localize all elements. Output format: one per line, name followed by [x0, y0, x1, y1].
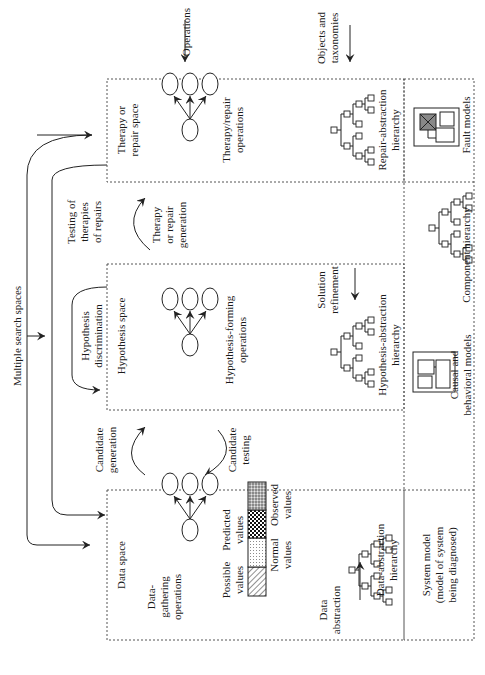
testing-therapies-label-3: of repairs: [91, 201, 103, 243]
fault-model-icon: [414, 108, 459, 146]
system-model-title-3: being diagnosed): [446, 527, 459, 603]
therapy-operations-label-1: Therapy/repair: [220, 97, 232, 163]
operations-label: Operations: [180, 8, 192, 56]
predicted-values-label-1: Predicted: [220, 509, 232, 551]
hypothesis-space-title: Hypothesis space: [115, 298, 127, 375]
data-hierarchy-label-1: Data-abstraction: [374, 523, 386, 596]
data-operations-label-2: gathering: [158, 576, 170, 618]
data-abstraction-label-2: abstraction: [330, 585, 342, 634]
candidate-testing-label-1: Candidate: [226, 428, 238, 473]
data-operations-label-3: operations: [171, 574, 183, 620]
testing-therapies-label-1: Testing of: [65, 200, 77, 244]
objects-taxonomies-label-2: taxonomies: [328, 13, 340, 64]
solution-refinement-label-1: Solution: [315, 271, 327, 309]
data-operations-label-1: Data-: [145, 584, 157, 609]
causal-models-label-1: Causal and: [448, 350, 460, 399]
diagnosis-search-spaces-diagram: Multiple search spaces Operations Object…: [0, 0, 485, 675]
hypothesis-abstraction-tree: [331, 317, 374, 387]
possible-values-label-1: Possible: [220, 562, 232, 599]
data-hierarchy-label-2: hierarchy: [387, 539, 399, 581]
candidate-generation-label-2: generation: [106, 426, 118, 473]
therapy-generation-label-1: Therapy: [150, 206, 162, 243]
data-gathering-fan: [162, 473, 218, 541]
objects-taxonomies-label-1: Objects and: [315, 11, 327, 64]
component-hierarchy-label: Component hierarchy: [460, 207, 472, 303]
predicted-values-label-2: values: [233, 516, 245, 544]
candidate-testing-arrow: [205, 430, 226, 475]
therapy-generation-label-2: or repair: [163, 206, 175, 244]
multiple-search-spaces-label: Multiple search spaces: [11, 286, 23, 386]
therapy-space-title-2: repair space: [128, 103, 140, 156]
data-abstraction-label-1: Data: [317, 600, 329, 621]
fault-models-label: Fault models: [460, 96, 472, 153]
repair-abstraction-tree: [331, 95, 374, 165]
candidate-generation-label-1: Candidate: [93, 428, 105, 473]
causal-models-label-2: behavioral models: [461, 335, 473, 416]
therapy-space-box: [107, 79, 404, 182]
therapy-generation-arrow: [134, 198, 150, 250]
hypothesis-operations-label-1: Hypothesis-forming: [223, 295, 235, 384]
therapy-space-title-1: Therapy or: [115, 105, 127, 154]
value-bar: [248, 482, 266, 596]
testing-therapies-label-2: therapies: [78, 202, 90, 242]
hypothesis-space-box: [107, 264, 404, 410]
candidate-generation-arrow: [132, 427, 146, 475]
observed-values-label-1: Observed: [268, 483, 280, 526]
hypothesis-discrimination-label-2: discrimination: [92, 304, 104, 368]
therapy-operations-fan: [162, 73, 218, 141]
system-model-title-1: System model: [420, 534, 432, 597]
hypothesis-hierarchy-label-2: hierarchy: [389, 324, 401, 366]
system-model-title-2: (model of system: [433, 526, 446, 603]
possible-values-label-2: values: [233, 566, 245, 594]
data-space-title: Data space: [115, 541, 127, 589]
therapy-generation-label-3: generation: [176, 201, 188, 248]
normal-values-label-1: Normal: [268, 538, 280, 572]
solution-refinement-label-2: refinement: [328, 266, 340, 314]
candidate-testing-label-2: testing: [239, 435, 251, 465]
normal-values-label-2: values: [281, 541, 293, 569]
observed-values-label-2: values: [281, 491, 293, 519]
repair-hierarchy-label-2: hierarchy: [389, 109, 401, 151]
hypothesis-operations-label-2: operations: [236, 317, 248, 363]
hypothesis-hierarchy-label-1: Hypothesis-abstraction: [376, 294, 388, 396]
hypothesis-operations-fan: [162, 288, 218, 356]
repair-hierarchy-label-1: Repair-abstraction: [376, 89, 388, 171]
therapy-operations-label-2: operations: [233, 107, 245, 153]
hypothesis-discrimination-label-1: Hypothesis: [79, 311, 91, 361]
